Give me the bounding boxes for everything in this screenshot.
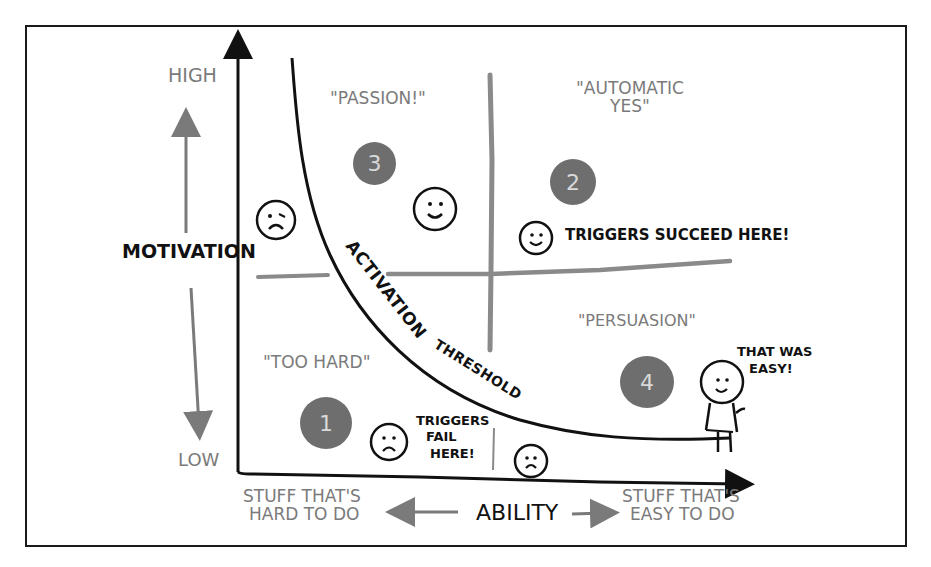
fail-divider-tick bbox=[493, 428, 494, 470]
horizontal-divider-left bbox=[258, 275, 328, 277]
speech-line2: easy! bbox=[737, 361, 812, 378]
stick-figure-speech: That was easy! bbox=[737, 344, 812, 378]
face-sad-fail-right bbox=[515, 445, 547, 477]
triggers-fail-label: Triggers fail here! bbox=[416, 413, 489, 462]
x-axis-hard-label: Stuff that's hard to do bbox=[243, 488, 361, 524]
arrow-right-icon bbox=[572, 513, 605, 514]
face-happy-passion bbox=[414, 188, 456, 230]
y-axis-label: Motivation bbox=[122, 242, 256, 262]
quadrant-4-badge: 4 bbox=[620, 356, 674, 408]
x-axis-easy-label: Stuff that's easy to do bbox=[622, 488, 740, 524]
triggers-succeed-label: Triggers succeed here! bbox=[565, 228, 789, 244]
y-axis-high-label: High bbox=[168, 66, 217, 86]
y-axis-low-label: Low bbox=[178, 451, 219, 470]
quadrant-4-name: "Persuasion" bbox=[578, 313, 696, 330]
arrow-down-icon bbox=[191, 288, 199, 426]
x-axis bbox=[238, 472, 740, 484]
diagram-canvas: Activation Threshold bbox=[0, 0, 931, 567]
quadrant-2-name: "Automatic yes" bbox=[576, 80, 684, 116]
face-sad-upper-left bbox=[257, 201, 295, 239]
quadrant-1-name: "Too hard" bbox=[263, 354, 371, 372]
horizontal-divider-right bbox=[388, 261, 730, 274]
quadrant-dividers bbox=[258, 75, 730, 350]
motivation-arrows bbox=[186, 122, 199, 426]
x-axis-label: Ability bbox=[476, 501, 558, 524]
triggers-fail-line3: here! bbox=[416, 446, 489, 462]
x-axis-hard-line2: hard to do bbox=[243, 506, 361, 524]
triggers-fail-line1: Triggers bbox=[416, 413, 489, 429]
quadrant-2-name-line2: yes" bbox=[576, 98, 684, 116]
speech-line1: That was bbox=[737, 344, 812, 361]
curve-label-activation: Activation bbox=[342, 236, 431, 342]
quadrant-3-name: "Passion!" bbox=[330, 90, 426, 108]
quadrant-1-badge: 1 bbox=[300, 397, 352, 449]
triggers-fail-line2: fail bbox=[416, 429, 489, 445]
curve-label-threshold: Threshold bbox=[431, 336, 525, 403]
face-sad-fail-left bbox=[371, 424, 407, 460]
quadrant-2-badge: 2 bbox=[550, 159, 596, 205]
face-happy-succeed bbox=[520, 222, 552, 254]
vertical-divider bbox=[490, 75, 492, 350]
x-axis-easy-line2: easy to do bbox=[622, 506, 740, 524]
quadrant-3-badge: 3 bbox=[353, 142, 396, 185]
